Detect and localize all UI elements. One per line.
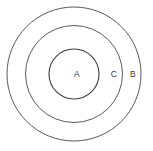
label-b: B <box>130 69 136 79</box>
concentric-circles-diagram: A C B <box>0 0 153 151</box>
diagram-canvas: A C B <box>0 0 153 151</box>
label-a: A <box>74 69 80 79</box>
label-c: C <box>111 69 117 79</box>
